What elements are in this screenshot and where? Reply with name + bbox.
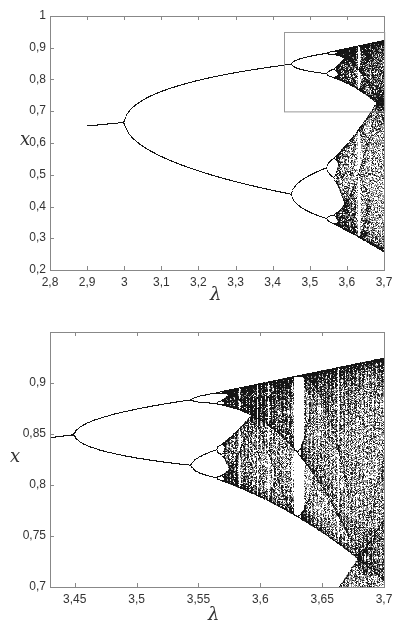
y-tick-label: 0,7	[6, 103, 46, 117]
bifurcation-plot-zoomed: 3,453,53,553,63,653,70,70,750,80,850,9 λ…	[0, 320, 408, 640]
y-tick-label: 0,8	[6, 477, 46, 491]
x-axis-label-zoomed: λ	[208, 603, 219, 624]
y-tick-label: 0,85	[6, 426, 46, 440]
plot-canvas-full	[0, 0, 408, 320]
x-tick-label: 2,8	[30, 275, 70, 289]
x-tick-label: 3,3	[216, 275, 256, 289]
x-tick-label: 3,7	[364, 275, 404, 289]
x-tick-label: 3,65	[302, 592, 342, 606]
x-tick-label: 3,5	[290, 275, 330, 289]
x-tick-label: 3,45	[55, 592, 95, 606]
y-tick-label: 0,9	[6, 375, 46, 389]
y-tick-label: 0,9	[6, 40, 46, 54]
y-tick-label: 0,8	[6, 72, 46, 86]
y-tick-label: 0,75	[6, 528, 46, 542]
x-tick-label: 3	[104, 275, 144, 289]
y-tick-label: 0,5	[6, 167, 46, 181]
bifurcation-plot-full: 2,82,933,13,23,33,43,53,63,70,20,30,40,5…	[0, 0, 408, 320]
x-tick-label: 3,6	[327, 275, 367, 289]
y-tick-label: 0,3	[6, 230, 46, 244]
y-tick-label: 0,7	[6, 579, 46, 593]
x-tick-label: 3,6	[240, 592, 280, 606]
y-axis-label-zoomed: x	[10, 445, 20, 466]
y-tick-label: 1	[6, 8, 46, 22]
x-tick-label: 3,1	[141, 275, 181, 289]
x-tick-label: 3,5	[117, 592, 157, 606]
x-axis-label-full: λ	[210, 283, 221, 304]
y-tick-label: 0,4	[6, 199, 46, 213]
x-tick-label: 2,9	[67, 275, 107, 289]
y-tick-label: 0,2	[6, 262, 46, 276]
x-tick-label: 3,7	[364, 592, 404, 606]
x-tick-label: 3,4	[253, 275, 293, 289]
y-axis-label-full: x	[20, 128, 30, 149]
